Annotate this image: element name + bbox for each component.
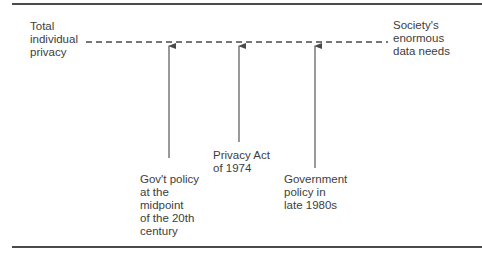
- label-line: privacy: [30, 46, 78, 59]
- marker-label-midcentury: Gov't policy at the midpoint of the 20th…: [140, 173, 199, 238]
- bottom-rule: [12, 246, 482, 248]
- left-end-label: Total individual privacy: [30, 20, 78, 59]
- right-end-label: Society's enormous data needs: [393, 19, 450, 58]
- label-line: data needs: [393, 45, 450, 58]
- marker-label-late-1980s: Government policy in late 1980s: [284, 173, 347, 212]
- label-line: Privacy Act: [213, 149, 270, 162]
- label-line: of the 20th: [140, 212, 199, 225]
- label-line: century: [140, 225, 199, 238]
- label-line: individual: [30, 33, 78, 46]
- label-line: Society's: [393, 19, 450, 32]
- label-line: enormous: [393, 32, 450, 45]
- label-line: Gov't policy: [140, 173, 199, 186]
- label-line: midpoint: [140, 199, 199, 212]
- label-line: Total: [30, 20, 78, 33]
- label-line: policy in: [284, 186, 347, 199]
- label-line: at the: [140, 186, 199, 199]
- label-line: of 1974: [213, 162, 270, 175]
- marker-label-privacy-act: Privacy Act of 1974: [213, 149, 270, 175]
- label-line: Government: [284, 173, 347, 186]
- label-line: late 1980s: [284, 199, 347, 212]
